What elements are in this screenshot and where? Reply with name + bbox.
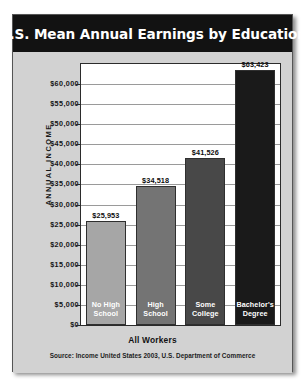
bar-category-label: HighSchool — [137, 300, 175, 318]
bar-category-label: SomeCollege — [186, 300, 224, 318]
chart-figure: U.S. Mean Annual Earnings by Education A… — [12, 14, 293, 372]
bar-value-label: $63,423 — [242, 60, 269, 69]
y-axis-tick-label: $55,000 — [50, 99, 79, 108]
chart-title-bar: U.S. Mean Annual Earnings by Education — [13, 15, 292, 52]
source-note: Source: Income United States 2003, U.S. … — [13, 352, 292, 359]
y-axis-tick-label: $25,000 — [50, 219, 79, 228]
y-axis-tick-label: $20,000 — [50, 239, 79, 248]
y-axis-tick-label: $15,000 — [50, 259, 79, 268]
bar-value-label: $34,518 — [142, 176, 169, 185]
y-axis-tick-labels: $0$5,000$10,000$15,000$20,000$25,000$30,… — [27, 52, 79, 373]
bar-value-label: $25,953 — [92, 211, 119, 220]
y-axis-tick-label: $10,000 — [50, 279, 79, 288]
y-axis-tick-label: $0 — [70, 320, 79, 329]
plot-area: $25,953No HighSchool$34,518HighSchool$41… — [80, 63, 281, 326]
bar-category-label: No HighSchool — [87, 300, 125, 318]
y-axis-tick — [76, 325, 81, 326]
y-axis-tick-label: $5,000 — [55, 299, 79, 308]
bars-layer: $25,953No HighSchool$34,518HighSchool$41… — [81, 64, 280, 325]
bar[interactable]: $63,423Bachelor'sDegree — [235, 70, 275, 325]
y-axis-tick-label: $30,000 — [50, 199, 79, 208]
page-title: U.S. Mean Annual Earnings by Education — [0, 26, 304, 42]
y-axis-tick-label: $40,000 — [50, 159, 79, 168]
bar-value-label: $41,526 — [192, 148, 219, 157]
x-axis-title: All Workers — [13, 335, 292, 345]
bar[interactable]: $25,953No HighSchool — [86, 221, 126, 325]
chart-body: ANNUAL INCOME $0$5,000$10,000$15,000$20,… — [13, 52, 292, 373]
bar[interactable]: $34,518HighSchool — [136, 186, 176, 325]
bar[interactable]: $41,526SomeCollege — [185, 158, 225, 325]
bar-category-label: Bachelor'sDegree — [236, 300, 274, 318]
y-axis-tick-label: $35,000 — [50, 179, 79, 188]
y-axis-tick-label: $45,000 — [50, 139, 79, 148]
y-axis-tick-label: $50,000 — [50, 119, 79, 128]
y-axis-tick-label: $60,000 — [50, 79, 79, 88]
